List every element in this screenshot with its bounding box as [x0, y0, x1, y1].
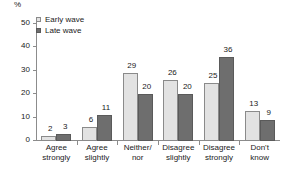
- bar-late-wave: [56, 134, 71, 141]
- bar-early-wave: [82, 127, 97, 141]
- bar-value-label: 11: [97, 104, 115, 112]
- bar-late-wave: [219, 57, 234, 141]
- bar-early-wave: [204, 83, 219, 142]
- bar-value-label: 3: [56, 123, 74, 131]
- bar-value-label: 13: [245, 100, 263, 108]
- bar-early-wave: [163, 80, 178, 141]
- bar-early-wave: [123, 73, 138, 141]
- bar-value-label: 25: [204, 72, 222, 80]
- bar-late-wave: [178, 94, 193, 141]
- x-axis-category-label: Don'tknow: [239, 143, 280, 163]
- y-axis-tick-label: 30: [6, 66, 30, 74]
- x-axis-category-label: Disagreeslightly: [158, 143, 199, 163]
- bar-value-label: 20: [138, 83, 156, 91]
- bar-value-label: 36: [219, 46, 237, 54]
- x-axis-category-label: Neither/nor: [117, 143, 158, 163]
- x-axis-category-label: Agreestrongly: [36, 143, 77, 163]
- x-axis-category-label: Disagreestrongly: [199, 143, 240, 163]
- bar-early-wave: [41, 136, 56, 141]
- y-axis-tick-label: 50: [6, 19, 30, 27]
- bar-early-wave: [245, 111, 260, 141]
- x-axis-category-label: Agreeslightly: [77, 143, 118, 163]
- y-axis-tick-label: 20: [6, 89, 30, 97]
- bar-group: [158, 20, 199, 141]
- bar-value-label: 20: [178, 83, 196, 91]
- y-axis-tick-label: 0: [6, 136, 30, 144]
- bar-group: [117, 20, 158, 141]
- bar-group: [199, 20, 240, 141]
- bar-value-label: 9: [260, 109, 278, 117]
- y-axis-unit-label: %: [14, 0, 21, 10]
- bar-value-label: 26: [163, 69, 181, 77]
- bar-value-label: 6: [82, 116, 100, 124]
- bar-late-wave: [260, 120, 275, 141]
- bar-late-wave: [138, 94, 153, 141]
- bar-chart: % 01020304050 Early wave Late wave Agree…: [0, 0, 282, 174]
- y-axis-tick-label: 10: [6, 113, 30, 121]
- bar-value-label: 29: [123, 62, 141, 70]
- y-axis-tick-label: 40: [6, 42, 30, 50]
- bar-group: [239, 20, 280, 141]
